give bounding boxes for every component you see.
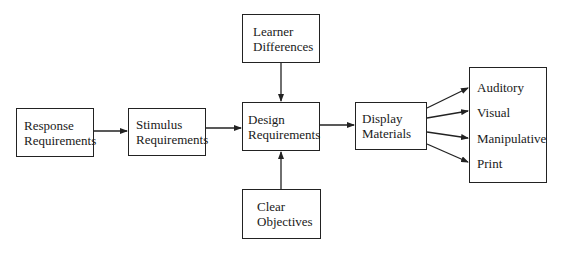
node-design-requirements: Design Requirements: [242, 102, 320, 151]
node-stimulus-requirements: Stimulus Requirements: [128, 108, 206, 156]
arrow-display-to-auditory: [427, 88, 468, 108]
output-auditory: Auditory: [477, 80, 524, 96]
node-label-line: Response: [24, 118, 96, 133]
node-label-line: Differences: [253, 39, 313, 54]
arrow-display-to-visual: [427, 111, 468, 118]
arrow-display-to-print: [427, 144, 468, 162]
output-manipulative: Manipulative: [477, 131, 546, 147]
node-label-line: Design: [248, 112, 320, 127]
node-label-line: Materials: [362, 126, 411, 141]
node-label-line: Display: [362, 111, 411, 126]
node-label-line: Requirements: [248, 127, 320, 142]
output-print: Print: [477, 156, 502, 172]
node-clear-objectives: Clear Objectives: [242, 189, 321, 239]
node-learner-differences: Learner Differences: [242, 14, 320, 63]
node-label-line: Requirements: [24, 133, 96, 148]
output-visual: Visual: [477, 105, 510, 121]
node-label-line: Objectives: [257, 214, 313, 229]
node-label-line: Stimulus: [136, 117, 208, 132]
node-response-requirements: Response Requirements: [16, 108, 94, 157]
node-display-materials: Display Materials: [355, 102, 427, 150]
node-label-line: Requirements: [136, 132, 208, 147]
node-label-line: Learner: [253, 24, 313, 39]
arrow-display-to-manipulative: [427, 132, 468, 138]
node-label-line: Clear: [257, 199, 313, 214]
node-media-outputs: Auditory Visual Manipulative Print: [469, 67, 547, 183]
